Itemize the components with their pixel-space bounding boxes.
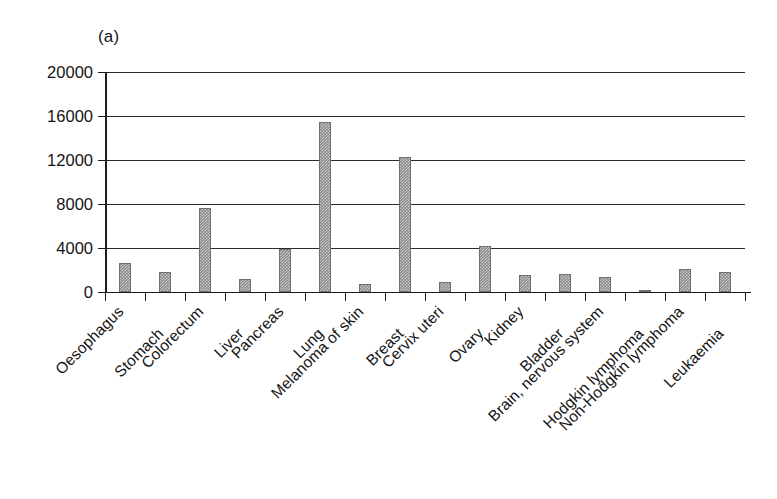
bar (439, 282, 451, 292)
bar (199, 208, 211, 292)
bar (319, 122, 331, 293)
y-tick-label-8000: 8000 (56, 195, 93, 214)
y-tick-label-16000: 16000 (47, 107, 93, 126)
x-axis-line (99, 292, 751, 293)
bar (599, 277, 611, 292)
plot-area: 040008000120001600020000 (105, 72, 745, 292)
bar (559, 274, 571, 292)
y-tick-label-4000: 4000 (56, 239, 93, 258)
y-tick-label-0: 0 (84, 283, 93, 302)
bar-series (105, 72, 745, 292)
bar (679, 269, 691, 292)
figure-panel-a: (a) 040008000120001600020000 OesophagusS… (0, 0, 777, 499)
bar (279, 249, 291, 292)
bar (119, 263, 131, 292)
x-axis-category-labels: OesophagusStomachColorectumLiverPancreas… (0, 300, 777, 490)
bar (239, 279, 251, 292)
bar (719, 272, 731, 292)
panel-label: (a) (98, 27, 119, 47)
bar (479, 246, 491, 292)
bar (399, 157, 411, 292)
bar (159, 272, 171, 292)
bar (519, 275, 531, 292)
bar (359, 284, 371, 292)
y-tick-label-20000: 20000 (47, 63, 93, 82)
y-tick-label-12000: 12000 (47, 151, 93, 170)
x-axis-label: Cervix uteri (0, 303, 447, 499)
